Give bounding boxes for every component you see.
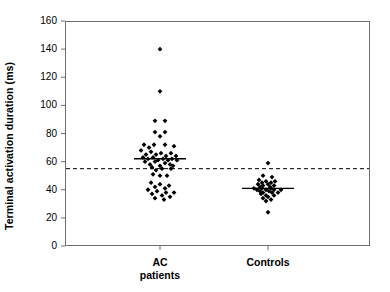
plot-canvas [0, 0, 390, 292]
x-tick-label: ACpatients [100, 256, 220, 282]
y-tick-label: 60 [23, 157, 57, 167]
x-tick-label-line: AC [100, 256, 220, 269]
y-tick-label: 160 [23, 16, 57, 26]
x-tick-label: Controls [208, 256, 328, 269]
y-tick-label: 20 [23, 213, 57, 223]
data-points-ac-patients [139, 47, 180, 202]
y-tick-label: 80 [23, 129, 57, 139]
y-tick-label: 40 [23, 185, 57, 195]
x-axis-ticks [160, 246, 268, 250]
y-tick-label: 100 [23, 100, 57, 110]
y-tick-label: 0 [23, 241, 57, 251]
y-axis-ticks [61, 21, 65, 246]
y-tick-label: 120 [23, 72, 57, 82]
y-tick-label: 140 [23, 44, 57, 54]
x-tick-label-line: patients [100, 269, 220, 282]
x-tick-label-line: Controls [208, 256, 328, 269]
scatter-plot-figure: Terminal activation duration (ms) 020406… [0, 0, 390, 292]
